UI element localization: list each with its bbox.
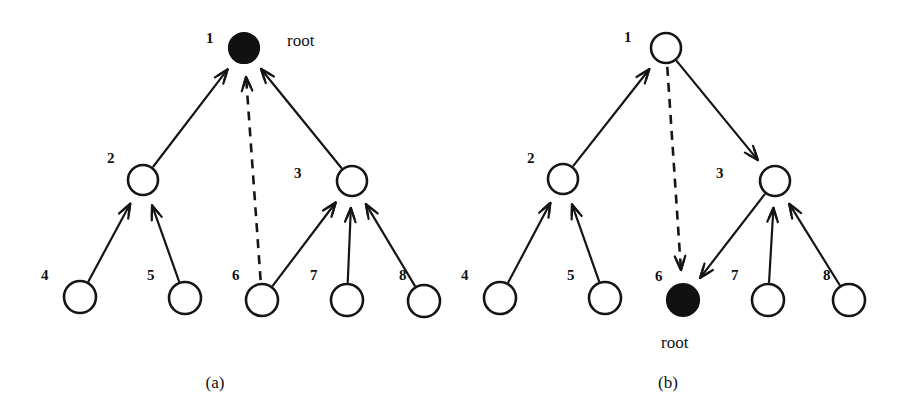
panel-b-node-label-8: 8 <box>823 267 831 283</box>
panel-a-caption: (a) <box>206 373 225 392</box>
panel-b: 12345678root(b) <box>461 29 865 392</box>
panel-a-node-5[interactable] <box>169 282 201 314</box>
panel-a-node-label-7: 7 <box>310 267 318 283</box>
panel-b-edge-3-to-6 <box>700 194 764 277</box>
panel-a-node-7[interactable] <box>331 284 363 316</box>
panel-a-nodes: 12345678 <box>41 30 440 317</box>
panel-a-node-8[interactable] <box>408 285 440 317</box>
panel-a-edge-6-to-3 <box>273 203 336 286</box>
panel-b-node-label-7: 7 <box>731 267 739 283</box>
panel-a-node-1[interactable] <box>229 33 259 63</box>
panel-b-node-3[interactable] <box>760 166 790 196</box>
panel-b-edge-8-to-3 <box>789 204 839 285</box>
panel-a-node-label-3: 3 <box>294 165 302 181</box>
panel-b-node-label-3: 3 <box>716 165 724 181</box>
panel-b-nodes: 12345678 <box>461 29 865 316</box>
panel-a-edge-2-to-1 <box>153 69 227 166</box>
panel-a-edge-3-to-1 <box>261 69 341 168</box>
figure-canvas: 12345678root(a)12345678root(b) <box>0 0 907 412</box>
panel-a-node-label-4: 4 <box>41 267 49 283</box>
panel-b-edge-1-to-6 <box>667 67 681 270</box>
panel-b-node-label-4: 4 <box>461 267 469 283</box>
panel-b-edge-5-to-2 <box>572 204 599 281</box>
panel-b-node-label-1: 1 <box>624 29 632 45</box>
panel-b-edge-1-to-3 <box>677 61 758 160</box>
panel-a-edge-8-to-3 <box>366 204 415 285</box>
panel-b-edge-2-to-1 <box>574 69 650 165</box>
panel-a-node-label-6: 6 <box>232 267 240 283</box>
panel-b-node-5[interactable] <box>589 282 621 314</box>
panel-a-edge-6-to-1 <box>246 77 261 280</box>
panel-b-node-1[interactable] <box>651 33 681 63</box>
panel-b-node-label-6: 6 <box>655 268 663 284</box>
panel-b-caption: (b) <box>658 373 678 392</box>
panel-b-node-label-2: 2 <box>527 150 535 166</box>
panel-b-node-7[interactable] <box>752 284 784 316</box>
panel-b-node-8[interactable] <box>833 284 865 316</box>
panel-a-root-label: root <box>287 31 315 50</box>
panel-b-node-4[interactable] <box>484 282 516 314</box>
panel-a-node-label-1: 1 <box>206 30 214 46</box>
panel-a-edge-5-to-2 <box>152 205 179 281</box>
panel-a: 12345678root(a) <box>41 30 440 392</box>
panel-a-node-label-8: 8 <box>399 267 407 283</box>
panel-a-node-2[interactable] <box>128 165 158 195</box>
panel-a-edge-4-to-2 <box>89 204 131 281</box>
panel-b-node-6[interactable] <box>667 284 699 316</box>
panel-b-edge-7-to-3 <box>769 208 773 282</box>
panel-a-node-4[interactable] <box>64 281 96 313</box>
panel-a-edge-7-to-3 <box>348 208 351 282</box>
tree-figure: 12345678root(a)12345678root(b) <box>0 0 907 412</box>
panel-a-node-label-2: 2 <box>107 150 115 166</box>
panel-b-root-label: root <box>661 333 689 352</box>
panel-b-edge-4-to-2 <box>508 203 550 282</box>
panel-a-node-label-5: 5 <box>147 267 155 283</box>
panel-b-node-2[interactable] <box>548 164 578 194</box>
panel-a-node-3[interactable] <box>337 166 367 196</box>
panel-a-node-6[interactable] <box>246 284 278 316</box>
panel-b-node-label-5: 5 <box>567 267 575 283</box>
